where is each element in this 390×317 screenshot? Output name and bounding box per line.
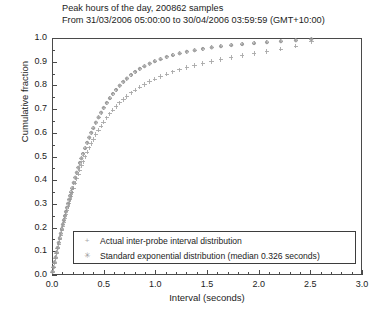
- plot-canvas: [0, 0, 390, 317]
- x-tick-label: 2.5: [295, 279, 325, 289]
- y-tick-label: 0.7: [21, 103, 47, 113]
- x-tick-label: 3.0: [347, 279, 377, 289]
- y-tick-label: 1.0: [21, 32, 47, 42]
- chart-legend: + Actual inter-probe interval distributi…: [73, 231, 356, 264]
- x-tick-label: 0.5: [89, 279, 119, 289]
- y-tick-label: 0.0: [21, 269, 47, 279]
- plus-marker-icon: +: [74, 237, 100, 245]
- y-tick-label: 0.8: [21, 79, 47, 89]
- legend-item-actual: + Actual inter-probe interval distributi…: [74, 233, 355, 249]
- y-tick-label: 0.5: [21, 151, 47, 161]
- chart-figure: Peak hours of the day, 200862 samples Fr…: [0, 0, 390, 317]
- asterisk-marker-icon: ✳: [74, 252, 100, 260]
- legend-label-exponential: Standard exponential distribution (media…: [100, 251, 320, 261]
- x-tick-label: 2.0: [244, 279, 274, 289]
- y-tick-label: 0.2: [21, 222, 47, 232]
- legend-label-actual: Actual inter-probe interval distribution: [100, 236, 242, 246]
- x-tick-label: 1.5: [192, 279, 222, 289]
- x-tick-label: 0.0: [37, 279, 67, 289]
- x-tick-label: 1.0: [140, 279, 170, 289]
- y-tick-label: 0.4: [21, 174, 47, 184]
- legend-item-exponential: ✳ Standard exponential distribution (med…: [74, 248, 355, 264]
- y-tick-label: 0.3: [21, 198, 47, 208]
- y-tick-label: 0.9: [21, 56, 47, 66]
- y-tick-label: 0.1: [21, 245, 47, 255]
- y-tick-label: 0.6: [21, 127, 47, 137]
